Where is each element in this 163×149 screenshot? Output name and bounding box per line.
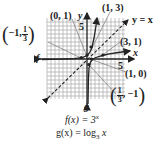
- point-label-prefix: −1,: [9, 27, 22, 38]
- g-equation: g(x) = log3 x: [56, 127, 107, 141]
- f-curve-label: f: [36, 53, 39, 63]
- g-curve-label: g: [84, 102, 89, 112]
- y-axis-label: y: [78, 11, 82, 21]
- point-label-neg1-third: (−1,13): [2, 24, 35, 44]
- y-tick-5: 5: [79, 22, 84, 32]
- point-label-0-1: (0, 1): [50, 11, 72, 21]
- f-equation: f(x) = 3x: [65, 113, 99, 125]
- point-label-third-neg1: (13, −1): [110, 85, 145, 105]
- point-label-3-1: (3, 1): [120, 37, 142, 47]
- identity-label: y = x: [132, 15, 153, 25]
- f-curve: [42, 18, 97, 60]
- x-axis-label: x: [133, 48, 138, 58]
- point-label-1-3: (1, 3): [102, 3, 124, 13]
- point-label-1-0: (1, 0): [125, 69, 147, 79]
- x-tick-5: 5: [118, 61, 123, 71]
